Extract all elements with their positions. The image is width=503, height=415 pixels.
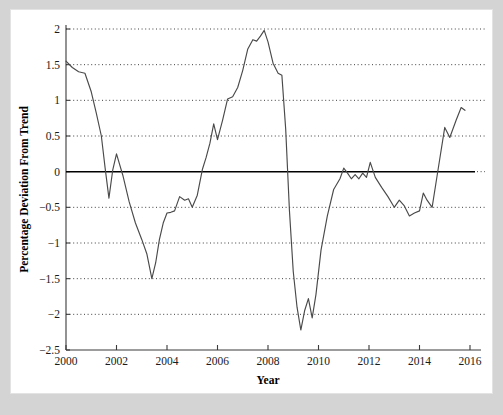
x-tick-label: 2016 xyxy=(459,355,482,367)
x-tick-label: 2002 xyxy=(105,355,128,367)
y-tick-label: 1.5 xyxy=(46,59,61,71)
figure-frame: 21.510.50−0.5−1−1.5−2−2.5200020022004200… xyxy=(11,10,492,393)
x-tick-label: 2012 xyxy=(358,355,381,367)
chart-canvas: 21.510.50−0.5−1−1.5−2−2.5200020022004200… xyxy=(11,10,492,393)
y-tick-label: −2 xyxy=(48,308,60,320)
y-tick-label: −1.5 xyxy=(39,273,60,285)
y-tick-label: 0.5 xyxy=(46,130,61,142)
y-tick-label: −0.5 xyxy=(39,201,60,213)
x-tick-label: 2014 xyxy=(408,355,431,367)
x-tick-label: 2000 xyxy=(55,355,78,367)
y-axis-title: Percentage Deviation From Trend xyxy=(18,106,31,273)
y-tick-label: −1 xyxy=(48,237,60,249)
x-tick-label: 2008 xyxy=(257,355,280,367)
y-tick-label: 1 xyxy=(54,94,60,106)
x-tick-label: 2004 xyxy=(156,355,179,367)
line-chart: 21.510.50−0.5−1−1.5−2−2.5200020022004200… xyxy=(11,10,492,393)
x-tick-label: 2006 xyxy=(206,355,229,367)
x-axis-title: Year xyxy=(257,374,280,386)
y-tick-label: 2 xyxy=(54,23,60,35)
y-tick-label: 0 xyxy=(54,166,60,178)
data-series-0 xyxy=(66,30,465,330)
x-tick-label: 2010 xyxy=(307,355,330,367)
